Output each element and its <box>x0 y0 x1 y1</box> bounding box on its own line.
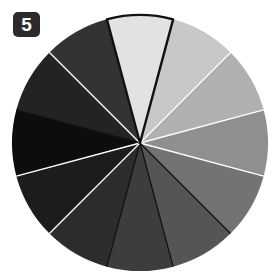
pie-chart[interactable] <box>0 0 275 275</box>
index-badge: 5 <box>13 12 40 37</box>
chart-canvas: 5 <box>0 0 275 275</box>
index-badge-label: 5 <box>21 15 32 34</box>
